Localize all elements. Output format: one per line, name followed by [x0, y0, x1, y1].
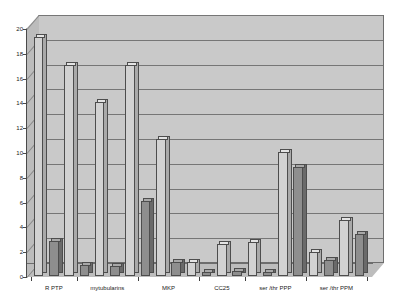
y-tick — [23, 153, 27, 154]
y-tick — [23, 252, 27, 253]
gridline — [39, 164, 383, 165]
bar — [80, 265, 89, 276]
bar-front — [64, 65, 73, 276]
y-tick-label: 8 — [20, 175, 23, 181]
bar — [156, 139, 165, 275]
bar — [187, 262, 196, 276]
bar-top — [189, 259, 198, 263]
bar — [95, 102, 104, 276]
bar-top — [326, 257, 335, 261]
y-tick — [23, 103, 27, 104]
bar — [309, 252, 318, 276]
y-tick-label: 4 — [20, 224, 23, 230]
bar-top — [82, 262, 91, 266]
bar — [125, 65, 134, 276]
y-tick-label: 16 — [16, 76, 23, 82]
bar-top — [280, 149, 289, 153]
x-tick — [199, 277, 200, 281]
gridline — [39, 89, 383, 90]
bar-top — [357, 231, 366, 235]
bar-front — [110, 266, 119, 276]
bar — [339, 220, 348, 276]
bar-side — [364, 231, 368, 273]
gridline — [39, 213, 383, 214]
gridline — [39, 40, 383, 41]
y-tick — [23, 227, 27, 228]
plot-area: 02468101214161820 R PTPmytubularinsMKPCC… — [26, 15, 384, 277]
x-axis-label: MKP — [162, 285, 175, 291]
bar — [248, 242, 257, 275]
gridline — [39, 15, 383, 16]
y-tick-label: 20 — [16, 26, 23, 32]
bar-front — [141, 201, 150, 275]
x-tick — [306, 277, 307, 281]
y-tick-label: 10 — [16, 150, 23, 156]
y-tick-label: 12 — [16, 125, 23, 131]
bar-top — [51, 238, 60, 242]
bar-front — [156, 139, 165, 275]
bar-side — [43, 34, 47, 273]
bar-top — [219, 241, 228, 245]
bar-side — [288, 149, 292, 273]
bar — [324, 260, 333, 276]
bar-top — [250, 239, 259, 243]
bar-front — [125, 65, 134, 276]
y-tick-label: 14 — [16, 100, 23, 106]
x-axis-label: mytubularins — [90, 285, 124, 291]
gridline — [39, 139, 383, 140]
bar-chart: 02468101214161820 R PTPmytubularinsMKPCC… — [0, 0, 394, 300]
bar-front — [248, 242, 257, 275]
y-tick-label: 0 — [20, 274, 23, 280]
bar-side — [104, 99, 108, 273]
gridline — [39, 238, 383, 239]
bar-front — [339, 220, 348, 276]
bar-side — [303, 164, 307, 273]
bar — [232, 271, 241, 276]
bar-front — [34, 37, 43, 276]
y-tick-label: 18 — [16, 51, 23, 57]
bar-top — [265, 269, 274, 273]
bar — [110, 266, 119, 276]
y-tick — [23, 79, 27, 80]
bar-front — [324, 260, 333, 276]
bar — [171, 262, 180, 276]
bar-side — [150, 198, 154, 272]
bar-top — [234, 268, 243, 272]
bar-top — [143, 198, 152, 202]
bar-front — [49, 241, 58, 276]
bar-front — [293, 167, 302, 276]
bar-side — [257, 239, 261, 272]
y-tick — [23, 54, 27, 55]
y-tick — [23, 128, 27, 129]
bar — [64, 65, 73, 276]
bar-side — [135, 62, 139, 273]
gridline — [39, 114, 383, 115]
bar-side — [166, 136, 170, 272]
bar-top — [97, 99, 106, 103]
bar-top — [112, 263, 121, 267]
bar-front — [309, 252, 318, 276]
bar-top — [204, 269, 213, 273]
bar-top — [341, 217, 350, 221]
bar-side — [227, 241, 231, 273]
bar-side — [74, 62, 78, 273]
bar — [49, 241, 58, 276]
gridline — [39, 189, 383, 190]
x-axis-label: R PTP — [45, 285, 63, 291]
y-tick — [23, 277, 27, 278]
bar-top — [173, 259, 182, 263]
bar-front — [187, 262, 196, 276]
bar-front — [278, 152, 287, 276]
bar-top — [66, 62, 75, 66]
bar — [263, 272, 272, 276]
bar-front — [217, 244, 226, 276]
gridline — [39, 65, 383, 66]
bar-top — [158, 136, 167, 140]
bar — [278, 152, 287, 276]
bar-top — [311, 249, 320, 253]
x-tick — [245, 277, 246, 281]
y-tick — [23, 29, 27, 30]
bar-top — [295, 164, 304, 168]
x-axis-label: CC25 — [214, 285, 229, 291]
bar-front — [80, 265, 89, 276]
